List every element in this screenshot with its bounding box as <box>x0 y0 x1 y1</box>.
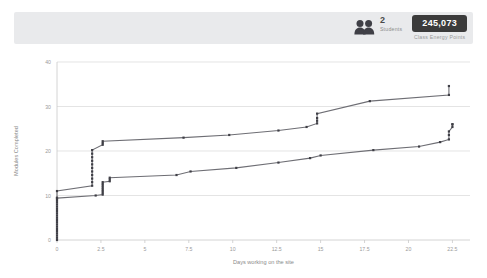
data-point <box>56 223 58 225</box>
data-point <box>316 120 318 122</box>
people-icon <box>354 19 376 35</box>
x-tick-label: 10 <box>230 246 236 252</box>
data-point <box>448 134 450 136</box>
data-point <box>56 206 58 208</box>
x-tick-label: 5 <box>143 246 146 252</box>
data-point <box>305 126 307 128</box>
modules-completed-chart: 01020304002.557.51012.51517.52022.5Days … <box>0 50 487 278</box>
y-tick-label: 20 <box>45 148 51 154</box>
data-point <box>95 194 97 196</box>
data-point <box>56 232 58 234</box>
data-point <box>56 239 58 241</box>
data-point <box>91 153 93 155</box>
x-tick-label: 20 <box>406 246 412 252</box>
data-point <box>91 149 93 151</box>
data-point <box>175 174 177 176</box>
data-point <box>277 129 279 131</box>
y-tick-label: 0 <box>48 237 51 243</box>
data-point <box>448 94 450 96</box>
energy-points-label: Class Energy Points <box>414 34 465 40</box>
data-point <box>316 117 318 119</box>
series-line <box>57 86 449 240</box>
data-point <box>182 137 184 139</box>
students-stat: 2 Students <box>354 12 402 44</box>
data-point <box>439 141 441 143</box>
data-point <box>448 138 450 140</box>
data-point <box>56 221 58 223</box>
x-axis-title: Days working on the site <box>233 259 294 265</box>
data-point <box>418 145 420 147</box>
data-point <box>91 163 93 165</box>
data-point <box>56 208 58 210</box>
data-point <box>56 210 58 212</box>
data-point <box>235 167 237 169</box>
data-point <box>56 197 58 199</box>
students-label: Students <box>380 27 402 32</box>
data-point <box>91 170 93 172</box>
data-point <box>448 130 450 132</box>
data-point <box>56 214 58 216</box>
data-point <box>451 126 453 128</box>
data-point <box>56 226 58 228</box>
data-point <box>448 85 450 87</box>
data-point <box>56 201 58 203</box>
y-axis-title: Modules Completed <box>13 126 19 176</box>
x-tick-label: 0 <box>56 246 59 252</box>
data-point <box>56 230 58 232</box>
data-point <box>91 181 93 183</box>
data-point <box>56 190 58 192</box>
data-point <box>56 234 58 236</box>
energy-points-badge: 245,073 <box>412 15 467 32</box>
x-tick-label: 17.5 <box>359 246 369 252</box>
students-text: 2 Students <box>380 16 402 32</box>
data-point <box>109 177 111 179</box>
students-value: 2 <box>380 16 402 25</box>
data-point <box>372 149 374 151</box>
data-point <box>189 170 191 172</box>
data-point <box>451 123 453 125</box>
data-point <box>56 228 58 230</box>
data-point <box>91 156 93 158</box>
data-point <box>56 212 58 214</box>
data-point <box>91 185 93 187</box>
data-point <box>309 157 311 159</box>
chart-svg: 01020304002.557.51012.51517.52022.5Days … <box>0 50 487 278</box>
y-tick-label: 10 <box>45 193 51 199</box>
data-point <box>56 217 58 219</box>
data-point <box>91 174 93 176</box>
energy-points-stat: 245,073 Class Energy Points <box>412 12 467 44</box>
y-tick-label: 30 <box>45 104 51 110</box>
x-tick-label: 12.5 <box>272 246 282 252</box>
data-point <box>369 100 371 102</box>
data-point <box>91 160 93 162</box>
stats-bar: 2 Students 245,073 Class Energy Points <box>14 12 473 44</box>
x-tick-label: 15 <box>318 246 324 252</box>
data-point <box>102 140 104 142</box>
data-point <box>56 203 58 205</box>
data-point <box>228 134 230 136</box>
data-point <box>91 177 93 179</box>
x-tick-label: 2.5 <box>97 246 104 252</box>
data-point <box>56 219 58 221</box>
data-point <box>320 154 322 156</box>
class-progress-page: 2 Students 245,073 Class Energy Points 0… <box>0 0 487 278</box>
data-point <box>56 237 58 239</box>
data-point <box>316 113 318 115</box>
data-point <box>316 122 318 124</box>
x-tick-label: 7.5 <box>185 246 192 252</box>
y-tick-label: 40 <box>45 59 51 65</box>
data-point <box>102 181 104 183</box>
series-line <box>57 124 452 198</box>
data-point <box>277 161 279 163</box>
x-tick-label: 22.5 <box>447 246 457 252</box>
data-point <box>91 167 93 169</box>
stats-group: 2 Students 245,073 Class Energy Points <box>354 12 467 44</box>
